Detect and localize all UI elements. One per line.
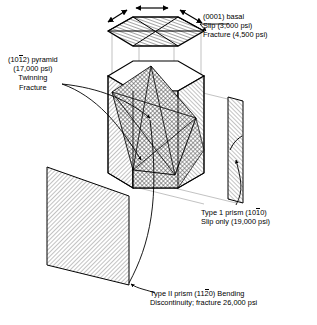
prism1-index-overbar-digit: 1 xyxy=(256,208,260,217)
basal-label-line3: Fracture (4,500 psi) xyxy=(203,30,268,39)
pyramid-index-suffix: 2) pyramid xyxy=(23,55,58,64)
prism2-index-suffix: 0) Bending xyxy=(209,289,245,298)
type-2-prism-label: Type II prism (1120) Bending Discontinui… xyxy=(150,289,257,307)
prism2-label-line1: Type II prism (1120) Bending xyxy=(150,289,257,298)
prism2-index-overbar-digit: 2 xyxy=(205,289,209,298)
basal-label-line1: (0001) basal xyxy=(203,12,268,21)
basal-label-line2: Slip (3,000 psi) xyxy=(203,21,268,30)
prism1-label-line2: Slip only (19,000 psi) xyxy=(201,217,270,226)
pyramid-index-prefix: (10 xyxy=(8,55,19,64)
prism2-index-prefix: Type II prism (11 xyxy=(150,289,205,298)
pyramid-label-line1: (1012) pyramid xyxy=(8,55,58,64)
crystal-planes-diagram xyxy=(0,0,317,325)
pyramid-label-line3: Twinning xyxy=(8,73,58,82)
prism1-index-prefix: Type 1 prism (10 xyxy=(201,208,256,217)
prism1-index-suffix: 0) xyxy=(260,208,267,217)
hexagonal-prism-crystal xyxy=(108,61,204,188)
type-1-prism-label: Type 1 prism (1010) Slip only (19,000 ps… xyxy=(201,208,270,226)
pyramid-plane-label: (1012) pyramid (17,000 psi) Twinning Fra… xyxy=(8,55,58,92)
pyramid-index-overbar-digit: 1 xyxy=(19,55,23,64)
pyramid-label-line4: Fracture xyxy=(8,83,58,92)
prism1-label-line1: Type 1 prism (1010) xyxy=(201,208,270,217)
basal-plane-label: (0001) basal Slip (3,000 psi) Fracture (… xyxy=(203,12,268,40)
pyramid-label-line2: (17,000 psi) xyxy=(8,64,58,73)
prism2-label-line2: Discontinuity; fracture 26,000 psi xyxy=(150,298,257,307)
